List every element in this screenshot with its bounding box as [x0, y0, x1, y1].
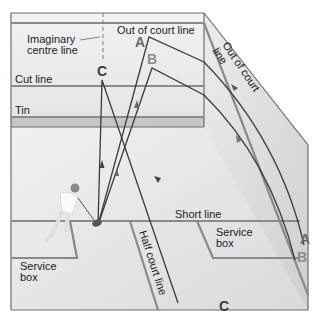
label-out-of-court-line-front: Out of court line: [117, 24, 195, 36]
label-short-line: Short line: [175, 208, 221, 220]
tin: [11, 117, 204, 127]
label-cut-line: Cut line: [15, 73, 52, 85]
squash-court-diagram: Imaginary centre line Out of court line …: [0, 0, 319, 323]
label-shot-a-top: A: [135, 34, 145, 50]
label-service-box-left-2: box: [20, 271, 38, 283]
label-tin: Tin: [15, 104, 30, 116]
label-service-box-right-2: box: [216, 237, 234, 249]
label-shot-c-top: C: [97, 63, 107, 79]
label-shot-b-bottom: B: [297, 249, 307, 265]
label-shot-c-bottom: C: [219, 298, 229, 314]
label-shot-a-bottom: A: [300, 231, 310, 247]
label-imaginary-centre-line-2: centre line: [27, 44, 78, 56]
label-shot-b-top: B: [147, 51, 157, 67]
